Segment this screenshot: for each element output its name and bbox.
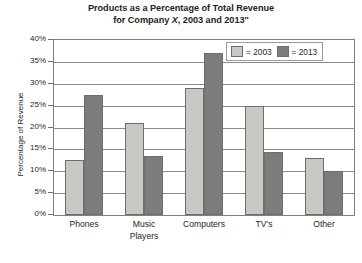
y-tick-label: 30%: [30, 77, 46, 88]
y-tick-20%: 20%: [0, 127, 53, 128]
legend-entry-2003: = 2003: [231, 46, 272, 57]
x-axis-labels: PhonesMusicPlayersComputersTV'sOther: [54, 219, 354, 259]
bar-other-2013: [324, 171, 343, 215]
bar-music-players-2003: [125, 123, 144, 215]
y-axis-ticks: 40%35%30%25%20%15%10%5%0%: [0, 39, 53, 216]
chart-title-line-2-after: , 2003 and 2013": [178, 15, 249, 25]
x-axis-label-line-1: TV's: [234, 219, 294, 231]
y-tick-label: 35%: [30, 55, 46, 66]
y-tick-30%: 30%: [0, 83, 53, 84]
bar-tv-s-2003: [245, 106, 264, 215]
bar-group-music-players: [114, 40, 174, 215]
bar-group-phones: [54, 40, 114, 215]
chart-title-line-2: for Company X, 2003 and 2013": [0, 15, 362, 27]
y-tick-15%: 15%: [0, 148, 53, 149]
x-axis-label-line-1: Music: [114, 219, 174, 231]
y-tick-label: 5%: [34, 186, 46, 197]
legend-label-2013: = 2013: [292, 47, 318, 57]
bar-computers-2013: [204, 53, 223, 215]
bar-music-players-2013: [144, 156, 163, 215]
bar-group-computers: [174, 40, 234, 215]
chart-title-line-1: Products as a Percentage of Total Revenu…: [0, 3, 362, 15]
x-axis-label-tv-s: TV's: [234, 219, 294, 231]
chart-title: Products as a Percentage of Total Revenu…: [0, 3, 362, 26]
x-axis-label-computers: Computers: [174, 219, 234, 231]
x-axis-label-phones: Phones: [54, 219, 114, 231]
legend-entry-2013: = 2013: [277, 46, 318, 57]
y-tick-label: 10%: [30, 164, 46, 175]
x-axis-label-line-1: Computers: [174, 219, 234, 231]
x-axis-label-line-2: Players: [114, 231, 174, 243]
bar-phones-2003: [65, 160, 84, 215]
bar-other-2003: [305, 158, 324, 215]
x-axis-label-line-1: Phones: [54, 219, 114, 231]
bar-group-tv-s: [234, 40, 294, 215]
y-tick-10%: 10%: [0, 170, 53, 171]
bar-tv-s-2013: [264, 152, 283, 215]
y-tick-35%: 35%: [0, 61, 53, 62]
y-tick-label: 0%: [34, 208, 46, 219]
legend-label-2003: = 2003: [246, 47, 272, 57]
y-tick-25%: 25%: [0, 105, 53, 106]
y-tick-label: 25%: [30, 99, 46, 110]
y-tick-label: 20%: [30, 121, 46, 132]
chart-legend: = 2003 = 2013: [226, 42, 323, 61]
bar-computers-2003: [185, 88, 204, 215]
x-axis-label-line-1: Other: [294, 219, 354, 231]
x-axis-label-music-players: MusicPlayers: [114, 219, 174, 242]
y-tick-5%: 5%: [0, 192, 53, 193]
bar-phones-2013: [84, 95, 103, 215]
y-tick-label: 15%: [30, 142, 46, 153]
x-axis-label-other: Other: [294, 219, 354, 231]
y-tick-40%: 40%: [0, 39, 53, 40]
bars-layer: [54, 40, 354, 215]
legend-swatch-2003-icon: [231, 46, 243, 57]
bar-group-other: [294, 40, 354, 215]
legend-swatch-2013-icon: [277, 46, 289, 57]
chart-title-line-2-before: for Company: [113, 15, 172, 25]
y-tick-label: 40%: [30, 33, 46, 44]
y-tick-0%: 0%: [0, 214, 53, 215]
